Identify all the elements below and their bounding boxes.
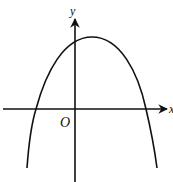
parabola-curve [27,37,157,168]
origin-label: O [60,115,70,130]
y-axis-label: y [69,4,76,18]
x-axis-label: x [168,102,173,116]
parabola-graph: y x O [0,0,173,182]
